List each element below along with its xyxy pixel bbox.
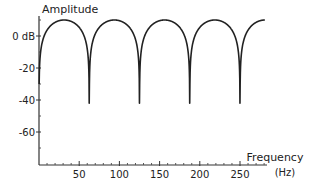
y-ticks: 0 dB-20-40-60 xyxy=(12,31,41,138)
y-tick-label: -40 xyxy=(19,95,35,106)
x-tick-label: 200 xyxy=(190,169,209,180)
x-axis-unit: (Hz) xyxy=(275,167,296,178)
x-tick-label: 250 xyxy=(230,169,249,180)
comb-filter-chart: 0 dB-20-40-60 50100150200250 Amplitude F… xyxy=(0,0,316,187)
x-axis-title: Frequency xyxy=(247,151,304,164)
x-ticks: 50100150200250 xyxy=(73,161,250,180)
x-tick-label: 50 xyxy=(73,169,86,180)
y-axis-title: Amplitude xyxy=(42,3,99,16)
y-tick-label: 0 dB xyxy=(12,31,35,42)
y-tick-label: -20 xyxy=(19,63,35,74)
x-tick-label: 150 xyxy=(150,169,169,180)
response-curve xyxy=(39,20,265,103)
y-tick-label: -60 xyxy=(19,127,35,138)
x-tick-label: 100 xyxy=(110,169,129,180)
minor-ticks xyxy=(39,20,264,165)
